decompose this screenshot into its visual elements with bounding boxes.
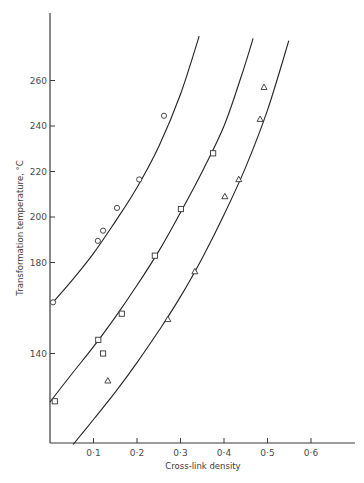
triangle-marker (165, 316, 171, 321)
triangle-marker (261, 84, 267, 89)
x-tick-label: 0·1 (86, 448, 100, 458)
data-markers (50, 84, 267, 404)
fit-curves (50, 36, 289, 444)
circle-marker (114, 205, 119, 210)
square-marker (52, 399, 57, 404)
circle-marker (161, 113, 166, 118)
y-tick-label: 220 (30, 167, 47, 177)
circle-marker (50, 300, 55, 305)
y-tick-label: 200 (30, 212, 47, 222)
circle-marker (137, 177, 142, 182)
triangle-marker (257, 116, 263, 121)
triangle-marker (192, 268, 198, 273)
x-axis-title: Cross-link density (165, 461, 240, 471)
x-tick-label: 0·4 (217, 448, 232, 458)
y-ticks: 140180200220240260 (30, 76, 55, 359)
x-tick-label: 0·2 (130, 448, 144, 458)
x-tick-label: 0·6 (304, 448, 319, 458)
square-marker (211, 151, 216, 156)
x-tick-label: 0·3 (173, 448, 187, 458)
x-tick-label: 0·5 (260, 448, 274, 458)
squares-fit-curve (50, 38, 253, 402)
square-marker (100, 351, 105, 356)
square-marker (152, 253, 157, 258)
axes (50, 13, 355, 443)
square-marker (119, 311, 124, 316)
circles-fit-curve (53, 36, 199, 302)
chart: 0·10·20·30·40·50·6 140180200220240260 Cr… (0, 0, 364, 483)
circle-marker (95, 238, 100, 243)
y-tick-label: 180 (30, 258, 47, 268)
y-tick-label: 140 (30, 349, 47, 359)
circle-marker (100, 228, 105, 233)
x-ticks: 0·10·20·30·40·50·6 (86, 438, 318, 458)
square-marker (96, 337, 101, 342)
y-axis-title: Transformation temperature, °C (15, 160, 25, 297)
triangles-fit-curve (73, 41, 289, 445)
y-tick-label: 260 (30, 76, 47, 86)
square-marker (178, 206, 183, 211)
triangle-marker (105, 378, 111, 383)
y-tick-label: 240 (30, 121, 47, 131)
triangle-marker (222, 193, 228, 198)
